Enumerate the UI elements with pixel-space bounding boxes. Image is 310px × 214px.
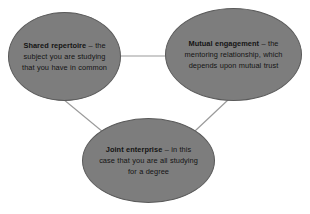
node-shared-repertoire[interactable]: Shared repertoire – the subject you are …: [8, 12, 121, 101]
node-joint-enterprise[interactable]: Joint enterprise – in this case that you…: [82, 118, 215, 203]
node-joint-enterprise-text: Joint enterprise – in this case that you…: [83, 144, 214, 177]
diagram-canvas: Shared repertoire – the subject you are …: [0, 0, 310, 214]
connector-shared-to-joint: [63, 99, 103, 132]
node-mutual-engagement-dash: –: [259, 39, 268, 48]
node-mutual-engagement-text: Mutual engagement – the mentoring relati…: [166, 38, 301, 71]
node-joint-enterprise-term: Joint enterprise: [106, 145, 163, 154]
node-shared-repertoire-dash: –: [86, 41, 95, 50]
node-mutual-engagement[interactable]: Mutual engagement – the mentoring relati…: [165, 8, 302, 101]
node-shared-repertoire-text: Shared repertoire – the subject you are …: [9, 40, 120, 73]
node-mutual-engagement-term: Mutual engagement: [189, 39, 260, 48]
node-shared-repertoire-term: Shared repertoire: [23, 41, 86, 50]
node-joint-enterprise-dash: –: [162, 145, 171, 154]
connector-mutual-to-joint: [195, 99, 229, 131]
